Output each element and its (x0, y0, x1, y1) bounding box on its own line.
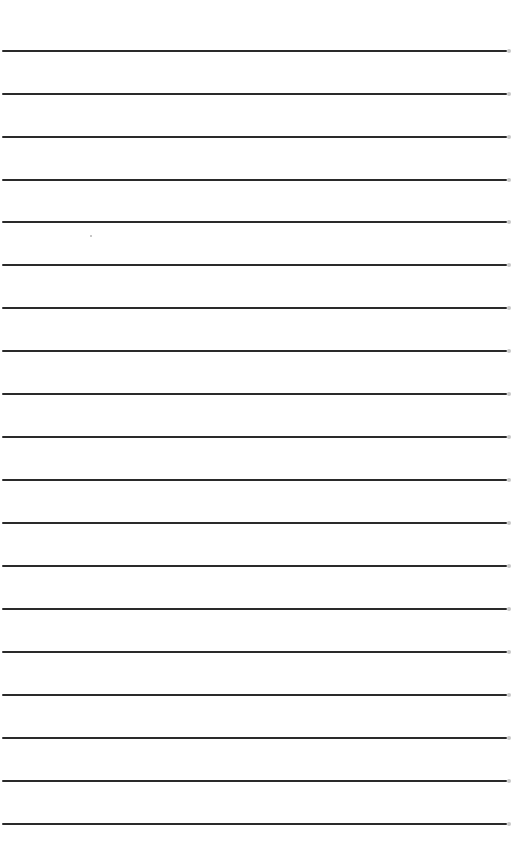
ruled-line (2, 522, 507, 524)
ruled-line-end-mark (507, 392, 511, 396)
ruled-line (2, 737, 507, 739)
ruled-line-end-mark (507, 135, 511, 139)
ruled-line-end-mark (507, 49, 511, 53)
ruled-line (2, 780, 507, 782)
ruled-line (2, 50, 507, 52)
ruled-line (2, 264, 507, 266)
ruled-line-end-mark (507, 650, 511, 654)
ruled-line-end-mark (507, 693, 511, 697)
ruled-line-end-mark (507, 220, 511, 224)
ruled-line-end-mark (507, 435, 511, 439)
ruled-line (2, 823, 507, 825)
ruled-line-end-mark (507, 521, 511, 525)
ruled-line (2, 93, 507, 95)
ruled-line-end-mark (507, 822, 511, 826)
ruled-line (2, 136, 507, 138)
ruled-line-end-mark (507, 349, 511, 353)
ruled-line (2, 694, 507, 696)
ruled-paper-sheet (0, 0, 512, 868)
ruled-line (2, 565, 507, 567)
ruled-line (2, 651, 507, 653)
ruled-line-end-mark (507, 478, 511, 482)
paper-speck (90, 235, 92, 237)
ruled-line-end-mark (507, 564, 511, 568)
ruled-line-end-mark (507, 779, 511, 783)
ruled-line (2, 179, 507, 181)
ruled-line (2, 479, 507, 481)
ruled-line (2, 608, 507, 610)
ruled-line-end-mark (507, 736, 511, 740)
ruled-line (2, 350, 507, 352)
ruled-line (2, 393, 507, 395)
ruled-line-end-mark (507, 92, 511, 96)
ruled-line (2, 221, 507, 223)
ruled-line (2, 307, 507, 309)
ruled-line-end-mark (507, 178, 511, 182)
ruled-line-end-mark (507, 607, 511, 611)
ruled-line (2, 436, 507, 438)
ruled-line-end-mark (507, 263, 511, 267)
ruled-line-end-mark (507, 306, 511, 310)
